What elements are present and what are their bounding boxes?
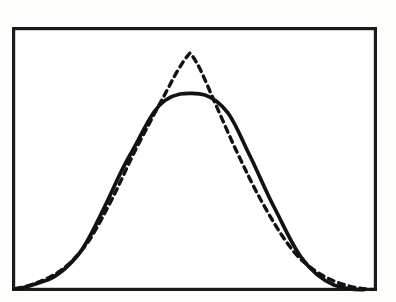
distribution-curves-figure: [0, 0, 396, 302]
plot-frame-background: [14, 29, 376, 290]
figure-container: [0, 0, 396, 302]
